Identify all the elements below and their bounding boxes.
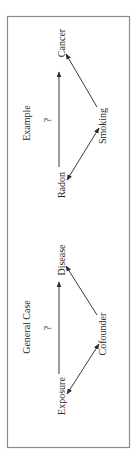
node-smoking: Smoking <box>97 108 108 144</box>
node-exposure: Exposure <box>56 377 67 415</box>
panel-title-example: Example <box>21 105 32 141</box>
node-radon: Radon <box>56 172 67 198</box>
node-cofounder: Cofounder <box>97 312 108 355</box>
question-mark-example: ? <box>42 117 53 122</box>
node-disease: Disease <box>56 244 67 276</box>
diagram-frame <box>8 17 130 448</box>
question-mark-general-case: ? <box>42 325 53 330</box>
panel-title-general-case: General Case <box>21 300 32 354</box>
node-cancer: Cancer <box>56 28 67 57</box>
confounding-diagram: Example ? Cancer Radon Smoking General C… <box>0 0 135 465</box>
